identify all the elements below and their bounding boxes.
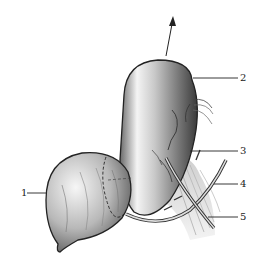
label-5: 5 [240, 212, 246, 222]
label-1: 1 [21, 188, 27, 198]
anatomical-figure [0, 0, 258, 262]
direction-arrow [166, 16, 176, 56]
label-4: 4 [240, 179, 246, 189]
label-2: 2 [240, 73, 246, 83]
lower-organ [46, 153, 132, 252]
label-3: 3 [240, 146, 246, 156]
